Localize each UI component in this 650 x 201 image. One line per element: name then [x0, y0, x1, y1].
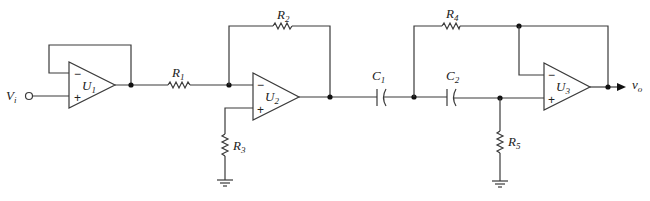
node-u3-out [605, 84, 610, 89]
opamp-u3-label: U3 [556, 79, 570, 96]
capacitor-c2-label: C2 [446, 68, 460, 85]
opamp-u1-label: U1 [82, 78, 96, 95]
input-terminal: Vi [6, 88, 69, 105]
resistor-r4: R4 [414, 6, 608, 97]
wire-u3-minus [519, 26, 544, 75]
output-label: vo [632, 77, 643, 94]
resistor-r1-label: R1 [171, 65, 184, 82]
resistor-r5-label: R5 [507, 134, 521, 151]
resistor-r2-label: R2 [276, 7, 290, 24]
wire-u2-plus-to-r3 [225, 108, 253, 134]
resistor-r3-zigzag [222, 134, 228, 156]
wire-r2-right [292, 26, 330, 97]
opamp-u2-label: U2 [265, 89, 279, 106]
output-arrow-icon [617, 83, 626, 91]
opamp-u3: − + U3 vo [544, 63, 643, 110]
opamp-u2: − + U2 R2 R3 [217, 7, 377, 186]
opamp-u3-plus: + [548, 93, 555, 107]
resistor-r5: R5 [492, 98, 521, 187]
node-u2-out [327, 94, 332, 99]
wire-r2-left [229, 26, 273, 85]
ground-icon [217, 180, 233, 186]
resistor-r5-zigzag [497, 131, 503, 153]
capacitor-c1: C1 [372, 68, 447, 106]
resistor-r1-zigzag [168, 82, 190, 88]
opamp-u3-minus: − [548, 68, 555, 82]
ground-icon [492, 181, 508, 187]
resistor-r1: R1 [168, 65, 253, 88]
opamp-u1-minus: − [74, 67, 81, 81]
resistor-r3-label: R3 [232, 138, 246, 155]
opamp-u1-plus: + [74, 91, 81, 105]
capacitor-c2: C2 [446, 68, 544, 106]
wire-r4-right [460, 26, 608, 87]
input-label: Vi [6, 88, 17, 105]
opamp-u1: − + U1 [49, 45, 168, 108]
resistor-r4-label: R4 [445, 6, 459, 23]
resistor-r4-zigzag [442, 23, 460, 29]
input-terminal-circle [26, 93, 33, 100]
opamp-u2-minus: − [257, 78, 264, 92]
node-u1-out [128, 82, 133, 87]
circuit-diagram: Vi − + U1 R1 − + U2 R2 R3 [0, 0, 650, 201]
capacitor-c1-label: C1 [372, 68, 385, 85]
opamp-u2-plus: + [257, 103, 264, 117]
wire-r4-left [414, 26, 442, 97]
